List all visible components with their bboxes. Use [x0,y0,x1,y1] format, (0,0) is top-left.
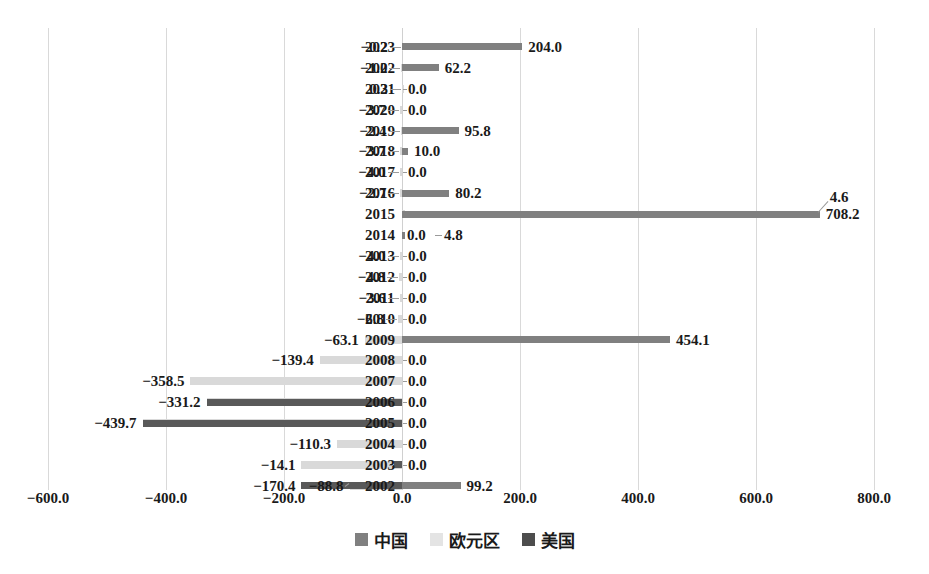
value-label-left-2006: −331.2 [158,395,200,410]
leader-line [403,402,407,403]
bar-eu [400,252,402,260]
value-label-right-2014: 4.8 [444,228,463,243]
leader-line [403,256,407,257]
chart-row: 20130.0−4.0 [0,246,929,267]
chart-row: 2015708.2 [0,204,929,225]
x-tick-label: 400.0 [621,490,655,507]
leader-line [403,172,407,173]
value-label-left-2021: 0.3 [369,81,388,96]
chart-row: 202262.2−1.0 [0,57,929,78]
category-label-2008: 2008 [365,353,395,368]
bar-us [143,420,402,427]
legend-swatch-icon [355,533,368,546]
chart-row: 201995.8−2.4 [0,120,929,141]
value-label-left-2004: −110.3 [289,437,330,452]
category-label-2005: 2005 [365,416,395,431]
value-label-left-2018: −3.7 [359,144,386,159]
value-label-right-2011: 0.0 [408,290,427,305]
value-label-right-2015: 708.2 [826,207,860,222]
value-label-left-2012: −4.8 [358,269,385,284]
value-label-left-2017: −4.0 [358,165,385,180]
category-label-2009: 2009 [365,332,395,347]
legend-label: 美国 [541,527,575,552]
leader-line [390,47,401,48]
value-label-right-2012: 0.0 [408,269,427,284]
x-tick-label: 800.0 [857,490,891,507]
x-tick-label: −600.0 [27,490,69,507]
leader-line [403,423,407,424]
legend-item-1[interactable]: 欧元区 [430,527,500,552]
value-label-left-2010: −6.8 [357,311,384,326]
leader-line [403,277,407,278]
legend-item-2[interactable]: 美国 [522,527,575,552]
chart-row: 20060.0−331.2 [0,392,929,413]
bar-eu [398,315,402,323]
x-tick-label: 600.0 [739,490,773,507]
value-label-right-2018: 10.0 [414,144,440,159]
value-label-right-2007: 0.0 [408,374,427,389]
leader-line [403,444,407,445]
leader-line [388,110,399,111]
leader-line [389,131,400,132]
value-label-right-2009: 454.1 [676,332,710,347]
chart-row: 20120.0−4.8 [0,266,929,287]
chart-row: 20210.00.3 [0,78,929,99]
value-label-left-2009: −63.1 [324,332,359,347]
value-label-left-2011: −3.6 [359,290,386,305]
value-label-right-2005: 0.0 [408,416,427,431]
bar-cn [402,148,408,155]
chart-row: 20110.0−3.6 [0,287,929,308]
chart-row: 201680.2−2.7 [0,183,929,204]
leader-line [403,360,407,361]
legend-swatch-icon [430,533,443,546]
leader-line [403,298,407,299]
value-label-left-2003: −14.1 [261,457,296,472]
leader-line [386,319,397,320]
chart-row: 20200.0−3.7 [0,99,929,120]
legend-item-0[interactable]: 中国 [355,527,408,552]
leader-line [403,465,407,466]
category-label-2004: 2004 [365,437,395,452]
value-label-right-2019: 95.8 [465,123,491,138]
x-tick-label: 0.0 [393,490,412,507]
category-label-2007: 2007 [365,374,395,389]
value-label-right-2020: 0.0 [408,102,427,117]
value-label-right-2004: 0.0 [408,437,427,452]
chart-row: 20100.0−6.8 [0,308,929,329]
leader-line [388,172,399,173]
leader-line [389,68,400,69]
category-label-2015: 2015 [365,207,395,222]
leader-line [390,89,401,90]
value-label-left-2016: −2.7 [359,186,386,201]
bar-cn [402,43,522,50]
leader-line [403,381,407,382]
value-label-right-2023: 204.0 [528,39,562,54]
category-label-2014: 2014 [365,228,395,243]
chart-row: 2009454.1−63.1 [0,329,929,350]
bar-eu [400,106,402,114]
leader-line [388,298,399,299]
value-label-right-2003: 0.0 [408,457,427,472]
chart-row: 20070.0−358.5 [0,371,929,392]
leader-line [389,465,393,466]
value-label-left-2020: −3.7 [359,102,386,117]
legend-swatch-icon [522,533,535,546]
leader-line [388,193,399,194]
leader-line [388,151,399,152]
chart-row: 20030.0−14.1 [0,455,929,476]
value-label-left-2014: 0.0 [407,228,426,243]
leader-line [388,256,399,257]
value-label-left-2007: −358.5 [142,374,184,389]
value-label-right-2013: 0.0 [408,248,427,263]
leader-line [403,89,407,90]
value-label-right-2008: 0.0 [408,353,427,368]
value-label-left-2013: −4.0 [358,248,385,263]
category-label-2006: 2006 [365,395,395,410]
bar-cn [402,64,439,71]
x-tick-label: 200.0 [503,490,537,507]
value-label-left-2022: −1.0 [360,60,387,75]
x-axis: −600.0−400.0−200.00.0200.0400.0600.0800.… [0,490,929,520]
x-tick-label: −200.0 [263,490,305,507]
chart-row: 20170.0−4.0 [0,162,929,183]
bar-eu [400,168,402,176]
